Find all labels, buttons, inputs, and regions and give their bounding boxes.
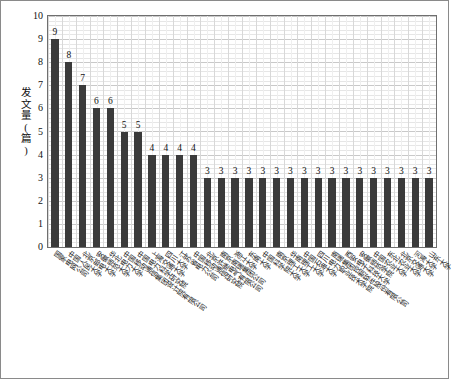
bar-value-label: 3	[242, 166, 256, 176]
bar-value-label: 3	[270, 166, 284, 176]
bar-value-label: 5	[131, 120, 145, 130]
bar	[342, 178, 349, 247]
y-axis-tick: 3	[3, 173, 43, 183]
bar	[65, 62, 72, 247]
bar	[121, 132, 128, 248]
bar-value-label: 9	[48, 27, 62, 37]
bar-value-label: 3	[256, 166, 270, 176]
bar-value-label: 3	[325, 166, 339, 176]
bar	[231, 178, 238, 247]
y-axis-tick: 2	[3, 196, 43, 206]
bar-value-label: 5	[117, 120, 131, 130]
bar-value-label: 3	[422, 166, 436, 176]
bar	[93, 108, 100, 247]
bar-value-label: 3	[284, 166, 298, 176]
y-axis-tick: 4	[3, 150, 43, 160]
gridline-major	[48, 247, 436, 248]
bar	[162, 155, 169, 247]
bar-value-label: 3	[214, 166, 228, 176]
y-axis-tick: 1	[3, 219, 43, 229]
bar-value-label: 8	[62, 50, 76, 60]
bar	[190, 155, 197, 247]
plot-area: 9876655444433333333333333333	[47, 15, 437, 248]
bar-value-label: 4	[145, 143, 159, 153]
bar	[51, 39, 58, 247]
bar-value-label: 3	[200, 166, 214, 176]
y-axis-tick: 0	[3, 242, 43, 252]
bar	[328, 178, 335, 247]
bar-value-label: 3	[297, 166, 311, 176]
y-axis-tick: 9	[3, 34, 43, 44]
bar	[356, 178, 363, 247]
y-axis-tick: 10	[3, 11, 43, 21]
y-axis-tick: 7	[3, 80, 43, 90]
bar	[425, 178, 432, 247]
bar-value-label: 3	[408, 166, 422, 176]
bar-value-label: 3	[339, 166, 353, 176]
bar	[259, 178, 266, 247]
y-axis-tick: 6	[3, 103, 43, 113]
bar	[370, 178, 377, 247]
bar-value-label: 4	[159, 143, 173, 153]
bar-value-label: 3	[353, 166, 367, 176]
bar	[315, 178, 322, 247]
bar-value-label: 7	[76, 73, 90, 83]
bar-value-label: 3	[367, 166, 381, 176]
bar-value-label: 4	[187, 143, 201, 153]
bar	[384, 178, 391, 247]
bar-value-label: 4	[173, 143, 187, 153]
bar	[287, 178, 294, 247]
bar	[176, 155, 183, 247]
bar	[245, 178, 252, 247]
bar-value-label: 3	[228, 166, 242, 176]
bar-series: 9876655444433333333333333333	[48, 16, 436, 247]
bar	[301, 178, 308, 247]
bar	[218, 178, 225, 247]
bar	[107, 108, 114, 247]
bar-value-label: 3	[311, 166, 325, 176]
y-axis-tick: 5	[3, 127, 43, 137]
y-axis-tick: 8	[3, 57, 43, 67]
gridline-vertical	[436, 16, 437, 247]
bar	[273, 178, 280, 247]
bar-value-label: 3	[394, 166, 408, 176]
bar	[398, 178, 405, 247]
bar	[148, 155, 155, 247]
bar-value-label: 6	[103, 96, 117, 106]
bar-value-label: 3	[381, 166, 395, 176]
bar-value-label: 6	[90, 96, 104, 106]
bar	[412, 178, 419, 247]
bar	[204, 178, 211, 247]
bar	[79, 85, 86, 247]
x-axis-tick-labels: 国家电网公司中国人民大学北京邮电大学安徽师范大学华北电力大学中国移动通信集团设计…	[47, 250, 437, 378]
bar	[134, 132, 141, 248]
y-axis-tick-labels: 109876543210	[1, 15, 43, 248]
